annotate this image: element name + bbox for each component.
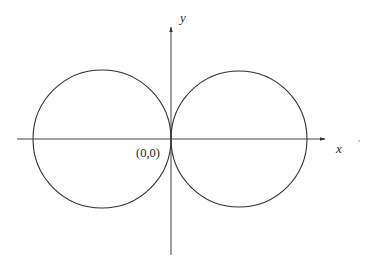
origin-label: (0,0) bbox=[136, 146, 160, 160]
diagram-canvas: y x (0,0) bbox=[0, 0, 369, 273]
speck-mark bbox=[358, 140, 360, 142]
y-axis-label: y bbox=[178, 10, 186, 25]
figure: y x (0,0) bbox=[0, 0, 369, 273]
x-axis-label: x bbox=[335, 141, 342, 156]
